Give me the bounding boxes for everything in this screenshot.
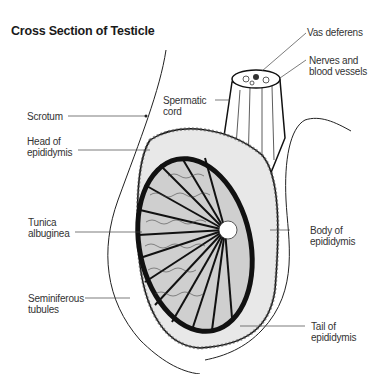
label-nerves-line2: blood vessels — [309, 66, 367, 77]
label-nerves-line1: Nerves and — [309, 55, 358, 66]
label-vas-deferens: Vas deferens — [307, 27, 363, 38]
label-spermatic-line1: Spermatic — [163, 95, 206, 106]
label-head-line2: epididymis — [27, 147, 72, 158]
label-tail-line1: Tail of — [311, 321, 336, 332]
label-body-line2: epididymis — [310, 236, 355, 247]
label-tunica-line2: albuginea — [28, 228, 70, 239]
label-scrotum: Scrotum — [27, 111, 63, 122]
label-spermatic-line2: cord — [163, 106, 182, 117]
label-semi-line2: tubules — [28, 304, 59, 315]
label-body-line1: Body of — [310, 225, 343, 236]
label-tail-line2: epididymis — [311, 332, 356, 343]
label-head-line1: Head of — [27, 136, 61, 147]
label-semi-line1: Seminiferous — [28, 293, 84, 304]
label-tunica-line1: Tunica — [28, 217, 56, 228]
diagram-canvas: Cross Section of Testicle — [0, 0, 387, 374]
